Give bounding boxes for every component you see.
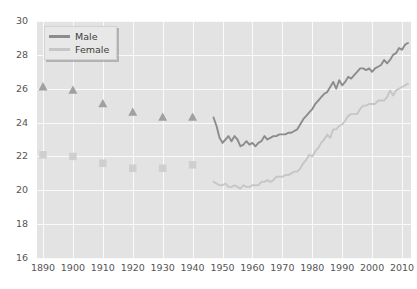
series-line-female <box>214 84 408 189</box>
marker-triangle-male <box>98 99 107 107</box>
legend-item-female: Female <box>49 43 109 56</box>
marker-triangle-male <box>188 113 197 121</box>
x-tick-label: 1960 <box>235 263 269 273</box>
marker-square-female <box>129 165 137 173</box>
x-tick-label: 1890 <box>26 263 60 273</box>
y-tick-label: 20 <box>0 185 33 195</box>
marker-triangle-male <box>38 82 47 90</box>
x-tick-label: 1910 <box>86 263 120 273</box>
chart-legend: Male Female <box>44 26 117 60</box>
x-tick-label: 2000 <box>355 263 389 273</box>
legend-swatch-female <box>49 48 70 51</box>
x-tick-label: 1930 <box>146 263 180 273</box>
marker-square-female <box>39 151 47 159</box>
legend-label-female: Female <box>75 45 109 55</box>
x-tick-label: 1970 <box>265 263 299 273</box>
marker-triangle-male <box>128 107 137 115</box>
gridline-horizontal <box>37 258 411 259</box>
y-tick-label: 18 <box>0 219 33 229</box>
y-tick-label: 16 <box>0 253 33 263</box>
marker-square-female <box>159 165 167 173</box>
x-tick-label: 1940 <box>176 263 210 273</box>
marker-square-female <box>99 159 107 167</box>
x-tick-label: 1980 <box>295 263 329 273</box>
marker-triangle-male <box>68 85 77 93</box>
y-tick-label: 28 <box>0 50 33 60</box>
marker-triangle-male <box>158 113 167 121</box>
marker-square-female <box>189 161 197 169</box>
x-tick-label: 1920 <box>116 263 150 273</box>
marker-square-female <box>69 153 77 161</box>
y-tick-label: 22 <box>0 151 33 161</box>
x-tick-label: 2010 <box>385 263 417 273</box>
y-tick-label: 26 <box>0 84 33 94</box>
x-tick-label: 1990 <box>325 263 359 273</box>
series-line-male <box>214 43 408 146</box>
legend-item-male: Male <box>49 30 109 43</box>
chart-figure: 1618202224262830 18901900191019201930194… <box>0 0 417 289</box>
legend-label-male: Male <box>75 32 98 42</box>
x-tick-label: 1950 <box>206 263 240 273</box>
legend-swatch-male <box>49 35 70 38</box>
x-tick-label: 1900 <box>56 263 90 273</box>
y-tick-label: 30 <box>0 16 33 26</box>
y-tick-label: 24 <box>0 118 33 128</box>
